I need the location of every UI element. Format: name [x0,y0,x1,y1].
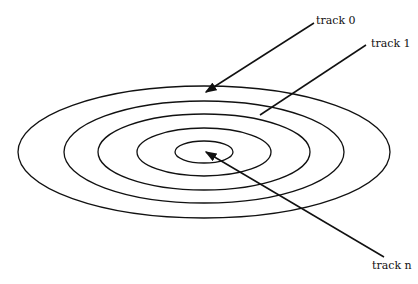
track-ellipse-2 [98,114,310,190]
label-track-0: track 0 [316,14,356,27]
track-ellipse-n [175,141,233,163]
track-ellipse-0 [18,86,390,218]
arrow-track-0 [206,23,314,92]
track-ellipse-1 [64,101,344,203]
arrow-track-n [206,152,384,257]
arrow-track-1 [260,45,366,115]
label-track-1: track 1 [371,37,411,50]
diagram-graphic [0,0,418,284]
label-track-n: track n [372,259,412,272]
disk-tracks-diagram: track 0 track 1 track n [0,0,418,284]
track-ellipse-3 [137,128,271,176]
